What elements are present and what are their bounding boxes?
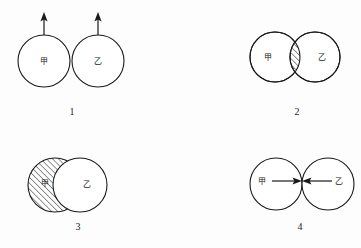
figure-canvas: 甲 乙 1 甲 乙 2 — [0, 0, 361, 248]
panel-1-arrow-up-yi — [94, 12, 101, 35]
panel-4-label-yi: 乙 — [335, 177, 343, 186]
panel-1-number: 1 — [70, 106, 75, 117]
panel-3-label-jia: 甲 — [41, 179, 49, 188]
panel-2-label-yi: 乙 — [318, 53, 326, 62]
panel-3-number: 3 — [76, 221, 81, 232]
panel-4: 甲 乙 4 — [250, 158, 354, 232]
panel-1-label-jia: 甲 — [40, 57, 48, 66]
panel-1-arrow-up-jia — [40, 12, 47, 35]
panel-2: 甲 乙 2 — [250, 32, 340, 117]
panel-4-label-jia: 甲 — [258, 177, 266, 186]
panel-3-label-yi: 乙 — [83, 180, 91, 189]
panel-4-circle-yi — [302, 158, 354, 210]
panel-4-number: 4 — [298, 221, 303, 232]
figure-container: 甲 乙 1 甲 乙 2 — [0, 0, 361, 248]
panel-3: 甲 乙 3 — [28, 158, 107, 232]
panel-1-label-yi: 乙 — [94, 57, 102, 66]
panel-3-circle-yi — [53, 158, 107, 212]
panel-1: 甲 乙 1 — [18, 12, 124, 117]
panel-2-number: 2 — [295, 106, 300, 117]
panel-2-label-jia: 甲 — [264, 53, 272, 62]
